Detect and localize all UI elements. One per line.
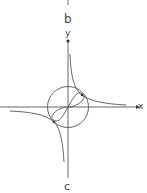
- hyperbola-branch-q3: [10, 111, 64, 162]
- label-x-axis: x: [138, 102, 143, 111]
- diagram-canvas: [0, 0, 147, 193]
- tangent-point-q1: [81, 94, 83, 96]
- y-axis-arrow-icon: [66, 39, 69, 42]
- label-b: b: [64, 13, 72, 25]
- label-c: c: [64, 181, 70, 192]
- hyperbola-branch-q1: [70, 54, 126, 105]
- label-y-axis: y: [65, 29, 70, 38]
- tangent-point-q3: [53, 121, 55, 123]
